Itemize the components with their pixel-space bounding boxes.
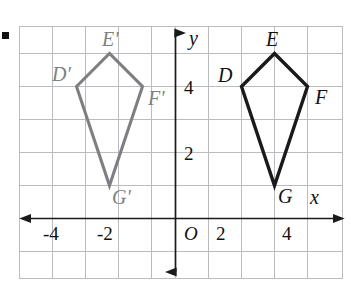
vertex-label-e: E <box>265 28 278 50</box>
corner-mark <box>2 32 9 39</box>
vertex-label-d-prime: D' <box>51 63 71 85</box>
origin-label: O <box>184 223 198 244</box>
coordinate-plane-svg: y x -4 -2 O 2 4 4 2 D E F G D' E' F' G' <box>0 0 351 306</box>
vertex-label-f: F <box>314 86 328 108</box>
vertex-label-d: D <box>217 64 233 86</box>
y-tick-label-2: 2 <box>184 143 194 164</box>
coordinate-plane-figure: y x -4 -2 O 2 4 4 2 D E F G D' E' F' G' <box>0 0 351 306</box>
x-tick-label-4: 4 <box>282 223 292 244</box>
x-tick-label-2: 2 <box>216 223 226 244</box>
x-tick-label-neg2: -2 <box>97 223 113 244</box>
vertex-label-f-prime: F' <box>147 87 165 109</box>
vertex-label-e-prime: E' <box>101 28 119 50</box>
y-axis-label: y <box>187 27 198 50</box>
y-tick-label-4: 4 <box>184 77 194 98</box>
x-axis-label: x <box>309 186 319 208</box>
vertex-label-g-prime: G' <box>112 186 131 208</box>
vertex-label-g: G <box>278 185 293 207</box>
x-tick-label-neg4: -4 <box>43 223 59 244</box>
